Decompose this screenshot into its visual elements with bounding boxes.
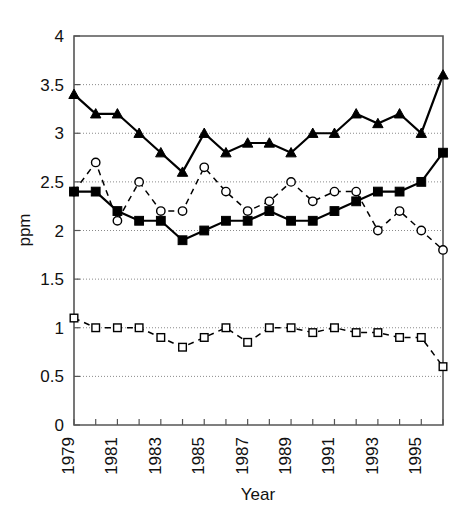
filled-square-series <box>70 148 448 244</box>
data-point-marker <box>438 70 448 79</box>
data-point-marker <box>395 187 404 196</box>
data-point-marker <box>265 197 273 205</box>
data-point-marker <box>244 339 252 347</box>
data-point-marker <box>439 246 447 254</box>
data-point-marker <box>331 324 339 332</box>
line-chart: 00.511.522.533.54 1979198119831985198719… <box>0 0 470 520</box>
data-point-marker <box>178 207 186 215</box>
data-point-marker <box>70 314 78 322</box>
data-point-marker <box>243 207 251 215</box>
data-point-marker <box>200 163 208 171</box>
x-tick-label: 1995 <box>406 437 425 475</box>
data-point-marker <box>222 324 230 332</box>
x-tick-label: 1983 <box>146 437 165 475</box>
data-point-marker <box>135 216 144 225</box>
x-tick-label: 1987 <box>233 437 252 475</box>
data-point-marker <box>352 329 360 337</box>
data-point-marker <box>265 207 274 216</box>
x-tick-label: 1989 <box>276 437 295 475</box>
data-point-marker <box>135 324 143 332</box>
y-tick-label: 1.5 <box>40 270 64 289</box>
filled-triangle-series <box>69 70 448 177</box>
data-point-marker <box>309 197 317 205</box>
data-point-marker <box>287 216 296 225</box>
data-point-marker <box>396 334 404 342</box>
data-point-marker <box>222 187 230 195</box>
data-point-marker <box>135 178 143 186</box>
data-point-marker <box>374 226 382 234</box>
data-point-marker <box>330 207 339 216</box>
data-point-marker <box>222 216 231 225</box>
data-point-marker <box>417 177 426 186</box>
y-tick-label: 0.5 <box>40 367 64 386</box>
y-tick-label: 2 <box>55 222 64 241</box>
data-point-marker <box>330 187 338 195</box>
data-point-marker <box>113 217 121 225</box>
data-point-marker <box>113 207 122 216</box>
data-point-marker <box>352 197 361 206</box>
x-tick-label: 1991 <box>319 437 338 475</box>
y-tick-label: 0 <box>55 416 64 435</box>
data-point-marker <box>70 187 79 196</box>
data-point-marker <box>395 207 403 215</box>
data-point-marker <box>439 148 448 157</box>
open-square-series <box>70 314 447 370</box>
y-tick-label: 2.5 <box>40 173 64 192</box>
data-point-marker <box>243 216 252 225</box>
data-point-marker <box>178 236 187 245</box>
data-point-marker <box>157 334 165 342</box>
x-axis-title: Year <box>241 485 276 504</box>
data-point-marker <box>199 128 209 137</box>
data-point-marker <box>373 187 382 196</box>
data-point-marker <box>439 363 447 371</box>
axis-ticks <box>74 36 443 425</box>
x-tick-label: 1993 <box>363 437 382 475</box>
data-series <box>69 70 448 371</box>
x-tick-label: 1985 <box>189 437 208 475</box>
data-point-marker <box>352 187 360 195</box>
data-point-marker <box>91 187 100 196</box>
x-axis-tick-labels: 197919811983198519871989199119931995 <box>59 437 425 475</box>
gridlines <box>74 85 443 377</box>
data-point-marker <box>309 329 317 337</box>
data-point-marker <box>351 109 361 118</box>
data-point-marker <box>200 226 209 235</box>
data-point-marker <box>179 343 187 351</box>
data-point-marker <box>92 158 100 166</box>
y-tick-label: 1 <box>55 319 64 338</box>
x-tick-label: 1979 <box>59 437 78 475</box>
data-point-marker <box>417 226 425 234</box>
data-point-marker <box>69 89 79 98</box>
y-tick-label: 4 <box>55 27 64 46</box>
data-point-marker <box>287 324 295 332</box>
data-point-marker <box>200 334 208 342</box>
data-point-marker <box>156 216 165 225</box>
data-point-marker <box>287 178 295 186</box>
plot-frame <box>74 36 443 425</box>
chart-container: 00.511.522.533.54 1979198119831985198719… <box>0 0 470 520</box>
data-point-marker <box>417 334 425 342</box>
y-axis-tick-labels: 00.511.522.533.54 <box>40 27 64 435</box>
data-point-marker <box>308 216 317 225</box>
open-circle-series <box>70 158 447 254</box>
data-point-marker <box>266 324 274 332</box>
data-point-marker <box>92 324 100 332</box>
data-point-marker <box>374 329 382 337</box>
x-tick-label: 1981 <box>102 437 121 475</box>
y-axis-title: ppm <box>15 213 34 246</box>
data-point-marker <box>157 207 165 215</box>
data-point-marker <box>114 324 122 332</box>
data-point-marker <box>394 109 404 118</box>
y-tick-label: 3.5 <box>40 76 64 95</box>
y-tick-label: 3 <box>55 124 64 143</box>
